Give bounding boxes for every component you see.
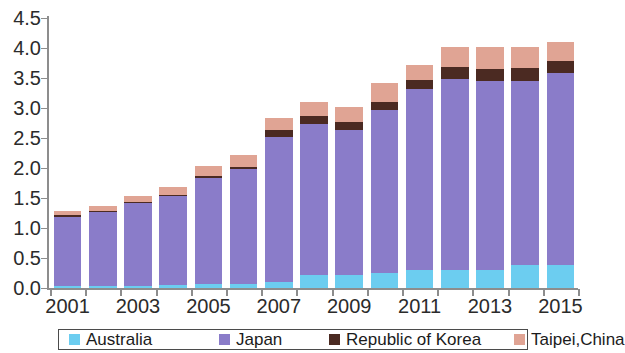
legend-item-australia[interactable]: Australia	[69, 330, 152, 349]
bar-segment-taipei-china	[371, 83, 398, 102]
y-tick-mark	[41, 258, 48, 259]
bar-2002[interactable]	[89, 206, 116, 288]
bar-segment-australia	[265, 282, 292, 288]
x-axis-line	[47, 288, 578, 290]
legend-label: Australia	[86, 331, 152, 348]
bar-segment-australia	[371, 273, 398, 288]
x-tick-label: 2011	[398, 296, 441, 316]
bar-2003[interactable]	[124, 196, 151, 288]
legend-label: Taipei,China	[531, 331, 625, 348]
x-axis-labels: 20012003200520072009201120132015	[0, 296, 585, 326]
bar-segment-japan	[441, 79, 468, 270]
x-tick-label: 2005	[186, 296, 231, 316]
bar-2010[interactable]	[371, 83, 398, 288]
x-tick-mark	[50, 289, 52, 296]
y-axis-line	[47, 16, 49, 290]
bar-segment-japan	[406, 89, 433, 270]
bar-segment-republic-of-korea	[371, 102, 398, 110]
x-tick-label: 2009	[327, 296, 372, 316]
bar-segment-japan	[54, 217, 81, 287]
bar-segment-australia	[195, 284, 222, 288]
y-tick-label: 3.0	[1, 98, 41, 118]
bar-segment-australia	[547, 265, 574, 288]
bar-segment-japan	[230, 169, 257, 284]
legend-swatch-icon	[69, 334, 80, 345]
x-tick-mark	[120, 289, 122, 296]
bar-segment-australia	[124, 286, 151, 288]
y-tick-label: 4.0	[1, 38, 41, 58]
x-tick-label: 2001	[45, 296, 90, 316]
y-tick-label: 0.5	[1, 248, 41, 268]
bar-segment-republic-of-korea	[406, 80, 433, 89]
bar-2006[interactable]	[230, 155, 257, 288]
legend-swatch-icon	[514, 334, 525, 345]
bar-segment-japan	[547, 73, 574, 265]
legend-item-taipei-china[interactable]: Taipei,China	[514, 330, 625, 349]
legend-swatch-icon	[329, 334, 340, 345]
x-tick-label: 2003	[116, 296, 161, 316]
bar-segment-taipei-china	[300, 102, 327, 116]
bar-2014[interactable]	[511, 47, 538, 288]
bar-segment-japan	[265, 137, 292, 282]
bar-segment-taipei-china	[159, 187, 186, 195]
y-tick-label: 1.0	[1, 218, 41, 238]
y-tick-label: 3.5	[1, 68, 41, 88]
bar-2015[interactable]	[547, 42, 574, 288]
bar-segment-republic-of-korea	[476, 69, 503, 81]
bar-segment-taipei-china	[265, 118, 292, 130]
x-tick-mark	[85, 289, 87, 296]
bar-segment-republic-of-korea	[124, 202, 151, 203]
bar-segment-australia	[441, 270, 468, 288]
x-tick-label: 2015	[538, 296, 583, 316]
bar-segment-republic-of-korea	[511, 68, 538, 81]
bar-segment-australia	[511, 265, 538, 288]
y-tick-label: 2.0	[1, 158, 41, 178]
bar-segment-japan	[335, 130, 362, 275]
y-tick-mark	[41, 198, 48, 199]
bar-segment-japan	[124, 203, 151, 286]
bar-segment-republic-of-korea	[300, 116, 327, 123]
bar-segment-australia	[159, 285, 186, 288]
x-tick-mark	[543, 289, 545, 296]
bar-segment-australia	[476, 270, 503, 288]
bar-2011[interactable]	[406, 65, 433, 288]
bar-2009[interactable]	[335, 107, 362, 288]
bar-segment-australia	[335, 275, 362, 288]
bar-segment-republic-of-korea	[230, 167, 257, 169]
x-tick-label: 2013	[468, 296, 513, 316]
y-tick-label: 1.5	[1, 188, 41, 208]
plot-area	[50, 18, 578, 288]
legend-label: Republic of Korea	[346, 331, 481, 348]
bar-segment-republic-of-korea	[441, 67, 468, 79]
bar-2001[interactable]	[54, 211, 81, 288]
bar-segment-australia	[230, 284, 257, 288]
bar-2005[interactable]	[195, 166, 222, 288]
bar-segment-australia	[54, 286, 81, 288]
x-tick-mark	[156, 289, 158, 296]
bar-2007[interactable]	[265, 118, 292, 288]
bar-2012[interactable]	[441, 47, 468, 288]
y-tick-mark	[41, 138, 48, 139]
bar-segment-taipei-china	[195, 166, 222, 176]
bar-2013[interactable]	[476, 47, 503, 288]
x-tick-mark	[367, 289, 369, 296]
x-tick-mark	[578, 289, 580, 296]
legend-item-republic-of-korea[interactable]: Republic of Korea	[329, 330, 481, 349]
bar-2004[interactable]	[159, 187, 186, 288]
bar-segment-republic-of-korea	[54, 215, 81, 216]
legend-item-japan[interactable]: Japan	[219, 330, 282, 349]
bar-2008[interactable]	[300, 102, 327, 288]
bar-segment-republic-of-korea	[335, 122, 362, 129]
bar-segment-japan	[89, 212, 116, 286]
bar-segment-taipei-china	[547, 42, 574, 61]
bar-segment-taipei-china	[124, 196, 151, 202]
bar-segment-australia	[89, 286, 116, 288]
bar-segment-taipei-china	[335, 107, 362, 123]
x-tick-mark	[226, 289, 228, 296]
bar-segment-japan	[511, 81, 538, 265]
x-tick-mark	[296, 289, 298, 296]
bar-segment-taipei-china	[441, 47, 468, 67]
bar-segment-taipei-china	[54, 211, 81, 215]
bar-segment-taipei-china	[230, 155, 257, 167]
bar-segment-republic-of-korea	[89, 211, 116, 212]
